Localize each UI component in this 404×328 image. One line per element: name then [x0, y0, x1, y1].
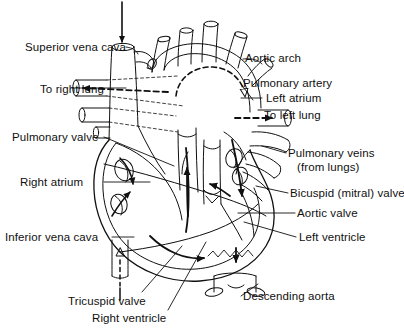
label-pulmonary-artery: Pulmonary artery: [243, 77, 332, 90]
label-bicuspid-mitral-valve: Bicuspid (mitral) valve: [290, 187, 404, 200]
bicuspid-mitral-valve-leaflets: [223, 146, 250, 187]
tricuspid-valve-leaflets: [108, 156, 136, 216]
pulmonary-veins-vessels: [240, 132, 290, 201]
label-aortic-valve: Aortic valve: [297, 207, 358, 220]
inferior-vena-cava-vessel: [112, 240, 128, 300]
label-right-atrium: Right atrium: [20, 176, 83, 189]
label-from-lungs: (from lungs): [297, 161, 360, 174]
label-superior-vena-cava: Superior vena cava: [25, 41, 126, 54]
label-to-left-lung: To left lung: [264, 109, 321, 122]
label-left-atrium: Left atrium: [266, 92, 321, 105]
label-tricuspid-valve: Tricuspid valve: [68, 295, 146, 308]
aortic-valve-leaflets: [204, 190, 221, 203]
aortic-arch-flow-arrow: [176, 67, 245, 96]
left-ventricle-chamber: [221, 190, 254, 240]
label-right-ventricle: Right ventricle: [92, 312, 166, 325]
label-pulmonary-veins: Pulmonary veins: [288, 147, 375, 160]
label-pulmonary-valve: Pulmonary valve: [12, 131, 99, 144]
label-left-ventricle: Left ventricle: [299, 231, 366, 244]
heart-diagram-page: Superior vena cava To right lung Pulmona…: [0, 0, 404, 328]
label-to-right-lung: To right lung: [40, 83, 104, 96]
label-inferior-vena-cava: Inferior vena cava: [5, 231, 98, 244]
label-descending-aorta: Descending aorta: [243, 290, 335, 303]
right-atrium-chamber: [116, 126, 182, 220]
blood-flow-arrows: [150, 140, 242, 262]
perspective-guide-lines: [107, 76, 184, 132]
myocardium-apex-edge: [208, 250, 253, 257]
label-aortic-arch: Aortic arch: [245, 52, 301, 65]
